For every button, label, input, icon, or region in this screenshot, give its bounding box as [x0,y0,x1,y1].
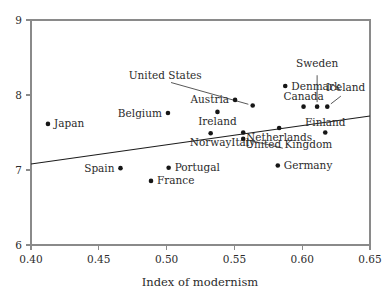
data-point-label: Japan [53,117,84,129]
data-point-label: Ireland [198,115,237,127]
axes [26,20,370,250]
label-leader-line [331,96,341,104]
y-tick-label: 7 [15,164,22,176]
data-point-label: France [157,174,194,186]
data-point-label: Sweden [296,57,338,69]
y-tick-label: 6 [15,239,22,251]
data-point-label: Portugal [175,161,221,173]
x-tick-label: 0.45 [87,253,110,265]
data-point-label: Belgium [118,107,162,119]
data-point-marker [166,165,171,170]
x-tick-label: 0.60 [291,253,314,265]
x-tick-label: 0.65 [358,253,381,265]
data-point-label: Spain [84,162,115,174]
data-point-label: Austria [189,93,229,105]
plot-frame [31,20,370,245]
data-point-marker [301,104,306,109]
data-point-label: Canada [283,90,323,102]
data-point-marker [118,166,123,171]
data-point-marker [215,110,220,115]
data-point-marker [275,163,280,168]
x-tick-label: 0.40 [19,253,42,265]
data-point-marker [166,111,171,116]
data-point-label: Iceland [326,81,366,93]
data-point-marker [233,98,238,103]
scatter-chart: JapanBelgiumAustriaIrelandUnited StatesD… [0,0,388,293]
data-point-marker [241,130,246,135]
data-point-marker [315,104,320,109]
data-point-marker [283,84,288,89]
data-point-marker [46,122,51,127]
data-point-marker [323,130,328,135]
data-point-marker [149,179,154,184]
data-point-label: Germany [284,159,333,171]
data-point-marker [277,126,282,131]
plot-svg: JapanBelgiumAustriaIrelandUnited StatesD… [0,0,388,293]
x-tick-label: 0.50 [155,253,178,265]
data-point-label: United States [129,69,202,81]
data-point-marker [250,103,255,108]
y-tick-label: 9 [15,14,22,26]
x-axis-title: Index of modernism [142,275,259,289]
data-point-label: Norway [190,136,232,148]
y-tick-label: 8 [15,89,22,101]
data-point-marker [208,131,213,136]
data-point-label: Finland [305,116,346,128]
data-point-marker [325,104,330,109]
x-tick-label: 0.55 [223,253,246,265]
data-point-label: United Kingdom [245,138,332,150]
point-labels: JapanBelgiumAustriaIrelandUnited StatesD… [53,57,366,186]
